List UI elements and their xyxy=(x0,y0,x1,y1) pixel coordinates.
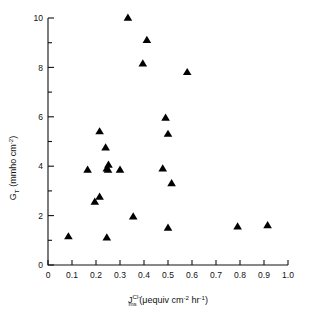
x-tick-label: 0.5 xyxy=(162,270,174,280)
data-point-marker xyxy=(161,114,170,121)
data-point-marker xyxy=(101,143,110,150)
tick-labels-group: 024681000.10.20.30.40.50.60.70.80.91.0 xyxy=(34,13,295,280)
data-point-marker xyxy=(64,232,73,239)
x-tick-label: 0.7 xyxy=(210,270,222,280)
data-point-marker xyxy=(116,165,125,172)
x-label-units-text2: hr xyxy=(189,295,200,305)
data-point-marker xyxy=(124,14,133,21)
y-tick-label: 4 xyxy=(38,161,43,171)
data-point-marker xyxy=(158,164,167,171)
data-point-marker xyxy=(167,179,176,186)
data-point-marker xyxy=(104,161,113,168)
y-axis-label: GT (mmho cm-2) xyxy=(7,136,20,200)
x-tick-label: 0.3 xyxy=(114,270,126,280)
y-label-main: G xyxy=(8,193,18,200)
data-point-marker xyxy=(164,223,173,230)
y-label-units-close: ) xyxy=(8,136,18,139)
svg-text:GT (mmho cm-2): GT (mmho cm-2) xyxy=(7,136,20,200)
data-point-marker xyxy=(233,222,242,229)
figure-container: 024681000.10.20.30.40.50.60.70.80.91.0 G… xyxy=(0,0,314,321)
scatter-plot: 024681000.10.20.30.40.50.60.70.80.91.0 G… xyxy=(0,0,314,321)
x-tick-label: 1.0 xyxy=(282,270,294,280)
x-tick-label: 0.4 xyxy=(138,270,150,280)
x-tick-label: 0.9 xyxy=(258,270,270,280)
data-point-marker xyxy=(129,212,138,219)
data-point-marker xyxy=(95,193,104,200)
x-tick-label: 0.6 xyxy=(186,270,198,280)
svg-text:JCl-ms (μequiv cm-2 hr-1): JCl-ms (μequiv cm-2 hr-1) xyxy=(128,293,208,307)
data-point-marker xyxy=(95,127,104,134)
x-label-units-text1: equiv cm xyxy=(147,295,183,305)
x-tick-label: 0.8 xyxy=(234,270,246,280)
data-point-marker xyxy=(143,36,152,43)
y-tick-label: 0 xyxy=(38,260,43,270)
y-tick-label: 8 xyxy=(38,63,43,73)
x-label-sub: ms xyxy=(128,300,136,307)
data-point-marker xyxy=(103,233,112,240)
y-tick-label: 6 xyxy=(38,112,43,122)
y-tick-label: 2 xyxy=(38,211,43,221)
x-tick-label: 0.1 xyxy=(66,270,78,280)
x-label-units-close: ) xyxy=(205,295,208,305)
data-markers-group xyxy=(64,14,272,241)
x-tick-label: 0.2 xyxy=(90,270,102,280)
data-point-marker xyxy=(139,59,148,66)
x-tick-label: 0 xyxy=(46,270,51,280)
data-point-marker xyxy=(183,68,192,75)
y-label-units-open: (mmho cm xyxy=(8,144,18,189)
data-point-marker xyxy=(263,221,272,228)
data-point-marker xyxy=(83,165,92,172)
data-point-marker xyxy=(164,130,173,137)
y-tick-label: 10 xyxy=(34,13,44,23)
x-axis-label: JCl-ms (μequiv cm-2 hr-1) xyxy=(128,293,208,307)
